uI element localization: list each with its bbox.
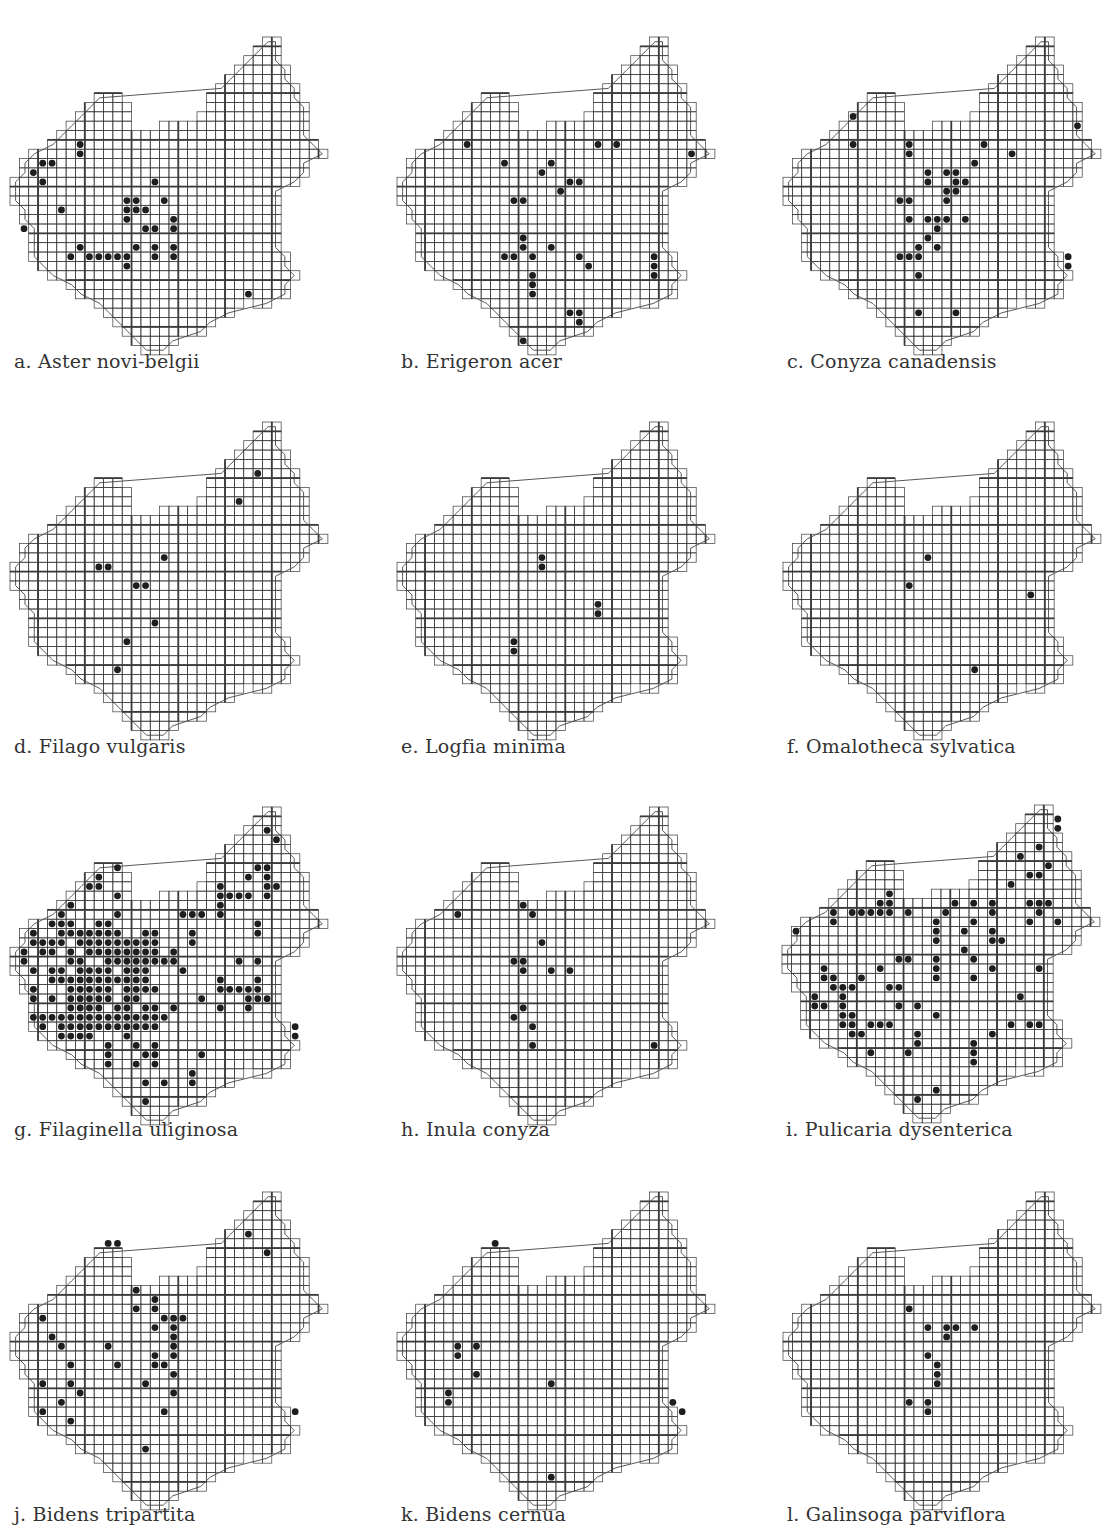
grid-cell [1054,289,1063,298]
record-dot [1026,900,1033,907]
grid-cell [584,112,593,121]
grid-cell [500,1398,509,1407]
grid-cell [631,1323,640,1332]
grid-cell [631,835,640,844]
record-dot [292,1023,299,1030]
grid-cell [547,1276,556,1285]
grid-cell [914,149,923,158]
grid-cell [914,1416,923,1425]
grid-cell [895,1416,904,1425]
grid-cell [66,140,75,149]
grid-cell [1063,544,1072,553]
grid-cell [978,1001,987,1010]
grid-cell [913,1104,922,1113]
grid-cell [565,1059,574,1068]
grid-cell [141,140,150,149]
grid-cell [253,1059,262,1068]
grid-cell [913,1020,922,1029]
grid-cell [509,280,518,289]
grid-cell [47,1426,56,1435]
grid-cell [593,1444,602,1453]
grid-cell [659,985,668,994]
grid-cell [397,947,406,956]
record-dot [915,253,922,260]
grid-cell [160,1003,169,1012]
grid-cell [839,609,848,618]
record-dot [49,949,56,956]
grid-cell [668,459,677,468]
grid-cell [593,1041,602,1050]
grid-cell [38,149,47,158]
grid-cell [649,1304,658,1313]
grid-cell [528,187,537,196]
grid-cell [509,1416,518,1425]
grid-cell [584,149,593,158]
grid-cell [472,1379,481,1388]
grid-cell [1007,1342,1016,1351]
grid-cell [225,1342,234,1351]
record-dot [906,582,913,589]
grid-cell [188,891,197,900]
grid-cell [103,1435,112,1444]
grid-cell [160,600,169,609]
grid-cell [1026,431,1035,440]
grid-cell [1007,196,1016,205]
grid-cell [668,891,677,900]
grid-cell [640,261,649,270]
grid-cell [621,1285,630,1294]
grid-cell [500,966,509,975]
grid-cell [631,1360,640,1369]
grid-cell [565,891,574,900]
grid-cell [188,693,197,702]
grid-cell [950,992,959,1001]
grid-cell [272,159,281,168]
grid-cell [922,1001,931,1010]
grid-cell [830,581,839,590]
grid-cell [848,674,857,683]
grid-cell [933,271,942,280]
grid-cell [113,177,122,186]
grid-cell [988,917,997,926]
grid-cell [234,487,243,496]
grid-cell [178,196,187,205]
grid-cell [942,674,951,683]
grid-cell [75,121,84,130]
grid-cell [94,637,103,646]
grid-cell [519,665,528,674]
grid-cell [444,168,453,177]
grid-cell [584,308,593,317]
grid-cell [244,1314,253,1323]
grid-cell [94,665,103,674]
grid-cell [225,656,234,665]
grid-cell [668,487,677,496]
grid-cell [612,177,621,186]
grid-cell [103,618,112,627]
grid-cell [885,1039,894,1048]
grid-cell [132,1435,141,1444]
grid-cell [914,205,923,214]
grid-cell [122,1295,131,1304]
grid-cell [272,674,281,683]
grid-cell [668,1295,677,1304]
grid-cell [253,1323,262,1332]
grid-cell [905,271,914,280]
grid-cell [85,665,94,674]
grid-cell [38,534,47,543]
grid-cell [1035,1398,1044,1407]
grid-cell [178,938,187,947]
grid-cell [885,880,894,889]
grid-cell [575,506,584,515]
grid-cell [668,469,677,478]
grid-cell [677,534,686,543]
grid-cell [272,459,281,468]
grid-cell [593,1295,602,1304]
grid-cell [519,1426,528,1435]
grid-cell [416,159,425,168]
grid-cell [933,702,942,711]
grid-cell [462,1022,471,1031]
grid-cell [10,572,19,581]
grid-cell [537,1463,546,1472]
grid-cell [490,1285,499,1294]
grid-cell [132,656,141,665]
grid-cell [141,1482,150,1491]
